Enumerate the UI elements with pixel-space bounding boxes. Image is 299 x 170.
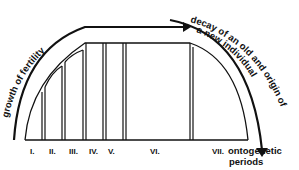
period-dividers	[42, 43, 193, 140]
period-label-7: VII.	[212, 147, 224, 156]
period-label-3: III.	[69, 147, 78, 156]
envelope-outline	[25, 43, 248, 140]
period-label-2: II.	[49, 147, 56, 156]
growth-arrow-arc	[14, 27, 183, 140]
growth-of-fertility-label: growth of fertility	[0, 44, 47, 118]
period-label-5: V.	[108, 147, 115, 156]
period-label-1: I.	[30, 147, 34, 156]
period-label-4: IV.	[89, 147, 98, 156]
ontogenetic-periods-diagram: growth of fertility decay of an old and …	[0, 0, 299, 170]
axis-label-ontogenetic: ontogenetic	[228, 145, 282, 156]
period-label-6: VI.	[150, 147, 160, 156]
axis-label-periods: periods	[229, 156, 263, 167]
